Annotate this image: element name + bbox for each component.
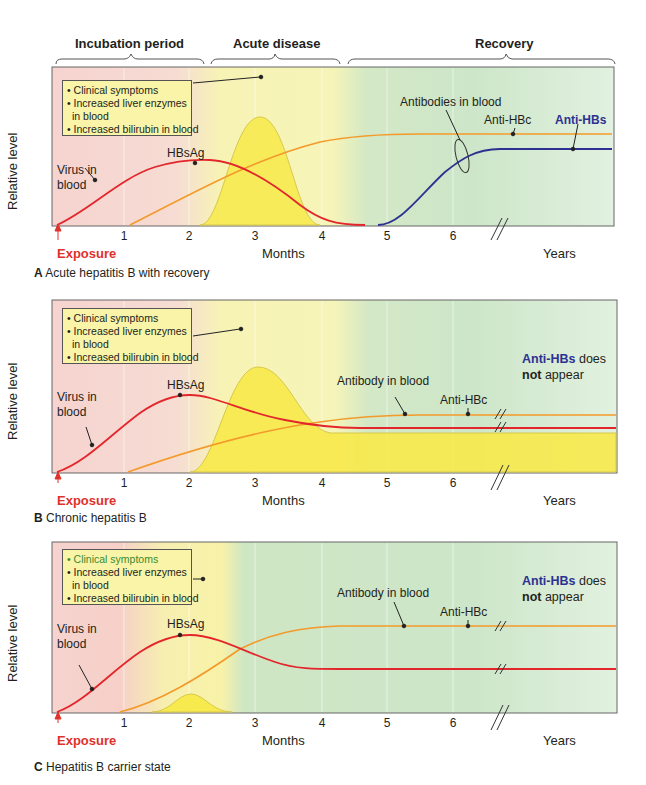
anti-hbs-note: Anti-HBs does not appear bbox=[522, 351, 606, 383]
tick-6: 6 bbox=[443, 476, 463, 490]
tick-3: 3 bbox=[245, 229, 265, 243]
anti-hbc-label: Anti-HBc bbox=[440, 605, 487, 620]
symptoms-box-c: • Clinical symptoms • Increased liver en… bbox=[62, 549, 192, 605]
hbsag-label: HBsAg bbox=[167, 378, 204, 393]
panel-title: Chronic hepatitis B bbox=[46, 511, 147, 525]
panel-a: • Clinical symptoms • Increased liver en… bbox=[0, 60, 646, 290]
symptom-item: • Increased liver enzymes bbox=[67, 97, 185, 110]
anti-hbs-note-bold: Anti-HBs bbox=[522, 352, 575, 366]
anti-hbs-note-appear: appear bbox=[541, 590, 583, 604]
symptom-item: • Increased liver enzymes bbox=[67, 566, 185, 579]
y-axis-label: Relative level bbox=[5, 133, 20, 210]
anti-hbc-label: Anti-HBc bbox=[440, 393, 487, 408]
exposure-label: Exposure bbox=[57, 493, 116, 508]
virus-label-line1: Virus in bbox=[57, 163, 97, 178]
tick-2: 2 bbox=[179, 476, 199, 490]
tick-5: 5 bbox=[377, 229, 397, 243]
x-axis-years: Years bbox=[543, 246, 576, 261]
panel-title: Hepatitis B carrier state bbox=[46, 760, 171, 774]
anti-hbs-note-appear: appear bbox=[541, 368, 583, 382]
symptom-item: • Clinical symptoms bbox=[67, 84, 185, 97]
panel-letter: C bbox=[34, 760, 43, 774]
symptoms-box-b: • Clinical symptoms • Increased liver en… bbox=[62, 308, 192, 364]
symptom-item: • Increased bilirubin in blood bbox=[67, 123, 185, 136]
symptom-item: in blood bbox=[67, 338, 185, 351]
panel-c: • Clinical symptoms • Increased liver en… bbox=[0, 537, 646, 785]
anti-hbs-note-rest: does bbox=[575, 352, 606, 366]
symptom-item: • Increased bilirubin in blood bbox=[67, 592, 185, 605]
anti-hbs-note-line2: not appear bbox=[522, 589, 606, 605]
anti-hbs-note-not: not bbox=[522, 368, 541, 382]
symptom-item: in blood bbox=[67, 579, 185, 592]
symptoms-box-a: • Clinical symptoms • Increased liver en… bbox=[62, 80, 192, 136]
hbsag-label: HBsAg bbox=[167, 146, 204, 161]
panel-letter: A bbox=[34, 266, 43, 280]
virus-label: Virus in blood bbox=[57, 163, 97, 193]
tick-5: 5 bbox=[377, 476, 397, 490]
tick-2: 2 bbox=[179, 229, 199, 243]
anti-hbc-label: Anti-HBc bbox=[484, 113, 531, 128]
virus-label: Virus in blood bbox=[57, 390, 97, 420]
panel-a-caption: A Acute hepatitis B with recovery bbox=[34, 266, 209, 280]
tick-3: 3 bbox=[245, 476, 265, 490]
anti-hbs-note: Anti-HBs does not appear bbox=[522, 573, 606, 605]
tick-6: 6 bbox=[443, 716, 463, 730]
anti-hbs-note-bold: Anti-HBs bbox=[522, 574, 575, 588]
anti-hbs-note-line2: not appear bbox=[522, 367, 606, 383]
panel-c-caption: C Hepatitis B carrier state bbox=[34, 760, 171, 774]
virus-label: Virus in blood bbox=[57, 622, 97, 652]
y-axis-label: Relative level bbox=[5, 363, 20, 440]
y-axis-label: Relative level bbox=[5, 605, 20, 682]
virus-label-line2: blood bbox=[57, 178, 97, 193]
panel-b-caption: B Chronic hepatitis B bbox=[34, 511, 147, 525]
panel-b: • Clinical symptoms • Increased liver en… bbox=[0, 295, 646, 535]
anti-hbs-note-line1: Anti-HBs does bbox=[522, 351, 606, 367]
x-axis-months: Months bbox=[262, 246, 305, 261]
hbsag-label: HBsAg bbox=[167, 617, 204, 632]
antibody-label: Antibody in blood bbox=[337, 374, 429, 389]
exposure-label: Exposure bbox=[57, 733, 116, 748]
tick-1: 1 bbox=[114, 476, 134, 490]
x-axis-months: Months bbox=[262, 493, 305, 508]
tick-2: 2 bbox=[179, 716, 199, 730]
tick-4: 4 bbox=[312, 716, 332, 730]
panel-title: Acute hepatitis B with recovery bbox=[45, 266, 209, 280]
tick-6: 6 bbox=[443, 229, 463, 243]
x-axis-years: Years bbox=[543, 493, 576, 508]
symptom-item: • Increased bilirubin in blood bbox=[67, 351, 185, 364]
antibody-label: Antibody in blood bbox=[337, 586, 429, 601]
tick-4: 4 bbox=[312, 229, 332, 243]
anti-hbs-note-rest: does bbox=[575, 574, 606, 588]
antibodies-label: Antibodies in blood bbox=[400, 95, 501, 110]
virus-label-line2: blood bbox=[57, 405, 97, 420]
tick-3: 3 bbox=[245, 716, 265, 730]
x-axis-years: Years bbox=[543, 733, 576, 748]
symptom-item: in blood bbox=[67, 110, 185, 123]
x-axis-months: Months bbox=[262, 733, 305, 748]
anti-hbs-note-line1: Anti-HBs does bbox=[522, 573, 606, 589]
tick-5: 5 bbox=[377, 716, 397, 730]
symptom-item: • Clinical symptoms bbox=[67, 312, 185, 325]
anti-hbs-note-not: not bbox=[522, 590, 541, 604]
tick-1: 1 bbox=[114, 716, 134, 730]
anti-hbs-label: Anti-HBs bbox=[555, 113, 606, 128]
virus-label-line1: Virus in bbox=[57, 622, 97, 637]
symptom-item: • Clinical symptoms bbox=[67, 553, 185, 566]
tick-4: 4 bbox=[312, 476, 332, 490]
virus-label-line2: blood bbox=[57, 637, 97, 652]
virus-label-line1: Virus in bbox=[57, 390, 97, 405]
tick-1: 1 bbox=[114, 229, 134, 243]
panel-letter: B bbox=[34, 511, 43, 525]
symptom-item: • Increased liver enzymes bbox=[67, 325, 185, 338]
exposure-label: Exposure bbox=[57, 246, 116, 261]
